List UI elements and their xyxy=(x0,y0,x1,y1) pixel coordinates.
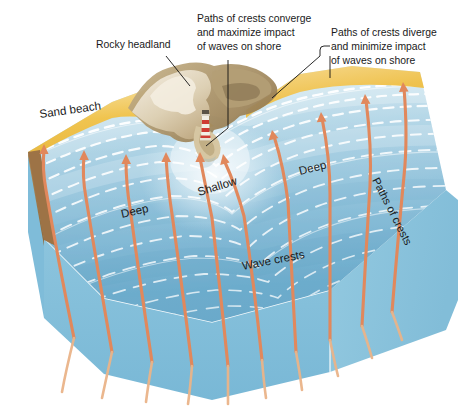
lighthouse-icon xyxy=(200,110,211,140)
callout-rocky-headland-line-1: Rocky headland xyxy=(96,39,171,50)
callout-diverge-line-3: of waves on shore xyxy=(331,55,416,66)
callout-converge: Paths of crests converge and maximize im… xyxy=(197,13,312,52)
figure-canvas: Rocky headland Paths of crests converge … xyxy=(0,0,474,418)
callout-rocky-headland: Rocky headland xyxy=(96,39,171,50)
callout-converge-line-1: Paths of crests converge xyxy=(197,13,312,24)
callout-diverge: Paths of crests diverge and minimize imp… xyxy=(331,27,437,66)
callout-diverge-line-1: Paths of crests diverge xyxy=(331,27,437,38)
wave-refraction-diagram: Rocky headland Paths of crests converge … xyxy=(0,0,474,418)
callout-converge-line-3: of waves on shore xyxy=(197,41,282,52)
leader-diverge-hook xyxy=(320,46,330,56)
callout-converge-line-2: and maximize impact xyxy=(197,27,295,38)
callout-diverge-line-2: and minimize impact xyxy=(331,41,426,52)
